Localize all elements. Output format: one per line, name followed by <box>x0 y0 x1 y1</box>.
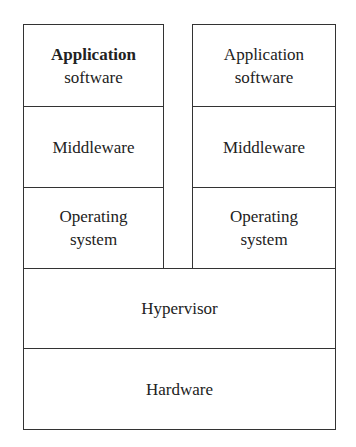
left-operating-system-layer: Operating system <box>23 187 164 269</box>
layer-label: Middleware <box>223 136 305 159</box>
hypervisor-layer: Hypervisor <box>23 268 336 349</box>
right-application-software-layer: Application software <box>192 24 336 107</box>
left-application-software-layer: Application software <box>23 24 164 107</box>
layer-label-line1: Operating <box>230 205 298 228</box>
right-operating-system-layer: Operating system <box>192 187 336 269</box>
layer-label: Hardware <box>146 378 213 401</box>
layer-label-line2: software <box>235 66 294 89</box>
layer-label-line1: Operating <box>60 205 128 228</box>
layer-label-line1: Application <box>51 43 136 66</box>
hardware-layer: Hardware <box>23 348 336 430</box>
layer-label: Middleware <box>52 136 134 159</box>
layer-label-line2: software <box>64 66 123 89</box>
layer-label-line2: system <box>240 228 287 251</box>
layer-label-line2: system <box>70 228 117 251</box>
left-middleware-layer: Middleware <box>23 106 164 188</box>
layer-label: Hypervisor <box>141 297 217 320</box>
right-middleware-layer: Middleware <box>192 106 336 188</box>
layer-label-line1: Application <box>224 43 304 66</box>
